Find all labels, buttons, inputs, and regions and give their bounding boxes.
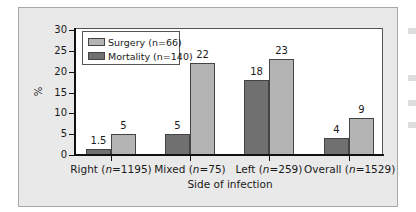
y-tick-label: 5 (45, 128, 67, 140)
y-tick-label: 20 (45, 66, 67, 78)
bar-surgery (349, 118, 374, 156)
edge-fragment (408, 100, 416, 106)
legend-item-surgery: Surgery (n=66) (88, 36, 182, 48)
x-category-label: Left (n=259) (224, 163, 314, 176)
y-axis-line (74, 28, 76, 156)
x-axis-line (74, 154, 384, 156)
surgery-swatch-icon (88, 38, 105, 46)
bar-surgery (190, 63, 215, 155)
y-tick-label: 10 (45, 107, 67, 119)
bar-value-label: 4 (322, 124, 352, 136)
legend-item-mortality: Mortality (n=140) (88, 50, 193, 62)
y-tick-label: 25 (45, 45, 67, 57)
y-tick-label: 0 (45, 149, 67, 161)
bar-surgery (269, 59, 294, 155)
x-tick (111, 155, 112, 161)
edge-fragment (408, 122, 416, 128)
x-tick (190, 155, 191, 161)
bar-surgery (111, 134, 136, 155)
bar-mortality (324, 138, 349, 155)
bar-value-label: 23 (267, 45, 297, 57)
edge-fragment (408, 75, 416, 81)
bar-value-label: 18 (242, 66, 272, 78)
x-category-label: Right (n=1195) (66, 163, 156, 176)
y-tick-label: 30 (45, 24, 67, 36)
bar-value-label: 1.5 (84, 135, 114, 147)
x-category-label: Mixed (n=75) (145, 163, 235, 176)
x-tick (269, 155, 270, 161)
bar-mortality (165, 134, 190, 155)
legend-label-surgery: Surgery (n=66) (108, 37, 182, 48)
bar-value-label: 9 (347, 104, 377, 116)
bar-value-label: 5 (109, 120, 139, 132)
x-category-label: Overall (n=1529) (304, 163, 394, 176)
mortality-swatch-icon (88, 52, 105, 60)
x-axis-title: Side of infection (160, 178, 300, 190)
x-tick (349, 155, 350, 161)
bar-mortality (244, 80, 269, 155)
bar-value-label: 5 (163, 120, 193, 132)
y-tick-label: 15 (45, 87, 67, 99)
legend-label-mortality: Mortality (n=140) (108, 51, 193, 62)
edge-fragment (408, 28, 416, 34)
legend: Surgery (n=66) Mortality (n=140) (82, 31, 180, 65)
y-axis-title: % (33, 87, 44, 97)
